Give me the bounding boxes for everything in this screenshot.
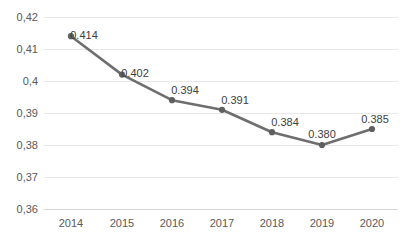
data-label-2020: 0.385 [348,114,402,125]
data-point-2018 [269,129,275,135]
x-axis-tick-2018: 2018 [247,218,297,229]
x-axis-tick-2014: 2014 [46,218,96,229]
data-label-2018: 0.384 [258,117,312,128]
y-axis-tick-0: 0,42 [2,12,38,23]
y-axis-tick-6: 0,36 [2,204,38,215]
x-axis-tick-2017: 2017 [197,218,247,229]
data-label-2017: 0.391 [208,95,262,106]
data-point-2019 [319,142,325,148]
data-label-2015: 0.402 [108,68,162,79]
data-label-2016: 0.394 [158,85,212,96]
y-axis-tick-1: 0,41 [2,44,38,55]
line-chart: 0,42 0,41 0,4 0,39 0,38 0,37 0,36 2014 2… [0,0,410,239]
y-axis-tick-5: 0,37 [2,172,38,183]
data-point-2020 [369,126,375,132]
data-point-2017 [219,107,225,113]
data-label-2014: 0.414 [57,30,111,41]
x-axis-tick-2019: 2019 [297,218,347,229]
data-point-2016 [169,97,175,103]
data-label-2019: 0.380 [295,129,349,140]
y-axis-tick-2: 0,4 [2,76,38,87]
y-axis-tick-4: 0,38 [2,140,38,151]
x-axis-tick-2015: 2015 [97,218,147,229]
x-axis-tick-2016: 2016 [147,218,197,229]
x-axis-tick-2020: 2020 [347,218,397,229]
y-axis-tick-3: 0,39 [2,108,38,119]
